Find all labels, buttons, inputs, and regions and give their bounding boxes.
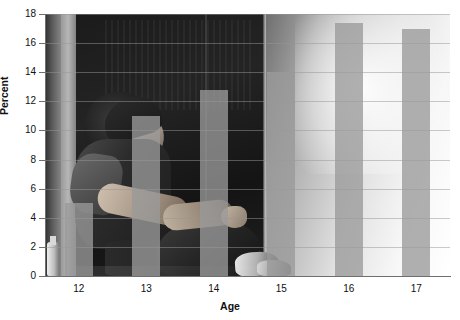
x-axis-tick-label: 17 <box>396 283 436 294</box>
y-axis-tick-label: 10 <box>0 125 36 135</box>
bar-14[interactable] <box>200 90 228 276</box>
x-axis-tick-label: 16 <box>329 283 369 294</box>
x-axis-title: Age <box>0 300 460 312</box>
y-axis-tick-label: 4 <box>0 213 36 223</box>
y-axis-tick-label: 16 <box>0 38 36 48</box>
x-axis-line <box>45 276 451 277</box>
y-axis-tick-label: 14 <box>0 67 36 77</box>
bar-16[interactable] <box>335 23 363 276</box>
bar-15[interactable] <box>267 72 295 276</box>
bar-13[interactable] <box>132 116 160 276</box>
y-axis-tick-label: 6 <box>0 184 36 194</box>
y-axis-tick-label: 18 <box>0 9 36 19</box>
y-axis-tick-label: 2 <box>0 242 36 252</box>
y-axis-line <box>45 14 46 277</box>
y-axis-tick <box>39 218 45 219</box>
y-axis-tick-label: 8 <box>0 155 36 165</box>
y-axis-tick <box>39 276 45 277</box>
x-axis-tick-label: 13 <box>126 283 166 294</box>
y-axis-tick <box>39 14 45 15</box>
y-axis-tick <box>39 130 45 131</box>
y-axis-tick <box>39 43 45 44</box>
chart-figure: Percent Age 024681012141618121314151617 <box>0 0 460 320</box>
x-axis-tick-label: 14 <box>194 283 234 294</box>
x-axis-tick-label: 12 <box>59 283 99 294</box>
bar-series <box>45 14 450 276</box>
x-axis-tick-label: 15 <box>261 283 301 294</box>
y-axis-tick <box>39 247 45 248</box>
y-axis-tick <box>39 72 45 73</box>
y-axis-tick <box>39 189 45 190</box>
bar-17[interactable] <box>402 29 430 276</box>
bar-12[interactable] <box>65 203 93 276</box>
y-axis-tick-label: 12 <box>0 96 36 106</box>
y-axis-tick-label: 0 <box>0 271 36 281</box>
y-axis-tick <box>39 160 45 161</box>
y-axis-tick <box>39 101 45 102</box>
